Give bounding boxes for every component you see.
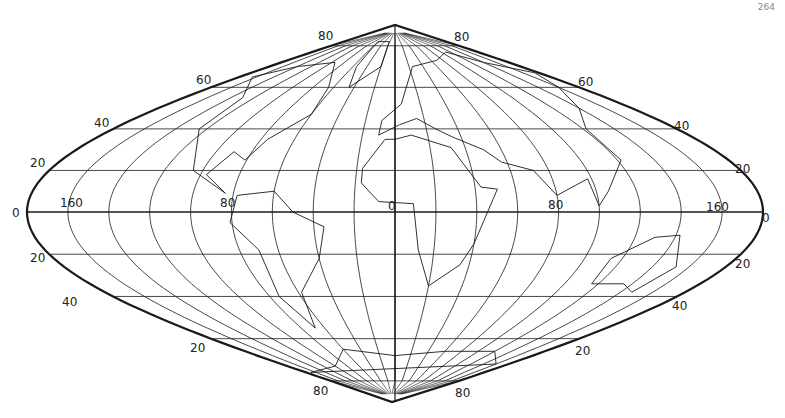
latitude-label: 20 (30, 251, 45, 265)
meridian-line (150, 46, 353, 381)
latitude-label: 20 (735, 257, 750, 271)
latitude-label: 80 (313, 384, 328, 398)
map-outline (27, 25, 763, 402)
longitude-label: 80 (220, 196, 235, 210)
latitude-label: 60 (578, 75, 593, 89)
latitude-label: 20 (575, 344, 590, 358)
meridian-line (231, 46, 366, 381)
coastline (193, 62, 335, 193)
latitude-label: 20 (735, 162, 750, 176)
latitude-label: 80 (454, 30, 469, 44)
latitude-label: 0 (762, 211, 770, 225)
coastline (311, 349, 496, 372)
meridian-line (423, 46, 558, 381)
latitude-label: 20 (190, 341, 205, 355)
meridian-line (452, 46, 722, 381)
latitude-label: 40 (94, 116, 109, 130)
coastlines (193, 42, 680, 373)
meridian-line (416, 46, 517, 381)
longitude-label: 160 (60, 196, 83, 210)
meridian-line (438, 46, 641, 381)
latitude-label: 80 (318, 29, 333, 43)
page-number: 264 (758, 2, 775, 12)
meridian-line (409, 46, 477, 381)
meridian-line (445, 46, 682, 381)
meridian-line (191, 46, 360, 381)
meridian-line (109, 46, 345, 381)
latitude-label: 60 (196, 73, 211, 87)
meridian-line (431, 46, 600, 381)
sinusoidal-world-map: 8060402002040208080604020020402080160800… (0, 0, 785, 418)
longitude-label: 160 (706, 200, 729, 214)
latitude-label: 40 (62, 295, 77, 309)
latitude-label: 0 (12, 206, 20, 220)
longitude-label: 0 (388, 199, 396, 213)
polar-meridian (398, 381, 437, 394)
latitude-label: 80 (455, 386, 470, 400)
latitude-label: 20 (30, 156, 45, 170)
meridian-line (354, 46, 388, 381)
meridian-line (68, 46, 338, 381)
meridian-line (27, 46, 331, 381)
meridian-line (402, 46, 436, 381)
latitude-label: 40 (672, 299, 687, 313)
longitude-label: 80 (548, 198, 563, 212)
graticule-labels: 8060402002040208080604020020402080160800… (12, 29, 770, 400)
latitude-label: 40 (674, 119, 689, 133)
